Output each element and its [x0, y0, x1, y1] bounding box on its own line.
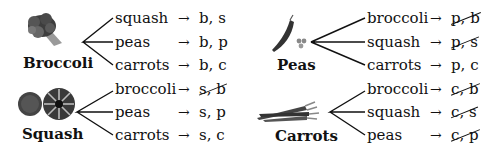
arrow-icon: → [430, 57, 442, 73]
arrow-icon: → [178, 81, 190, 97]
pair-result-crossed: s, b [199, 81, 226, 97]
branch-label: squash [367, 34, 420, 50]
broccoli-icon [24, 12, 68, 50]
group-label: Broccoli [23, 55, 93, 71]
branch-label: carrots [367, 57, 421, 73]
squash-icon [17, 87, 77, 121]
peapod-icon [268, 14, 308, 54]
branch-label: broccoli [367, 10, 428, 26]
arrow-icon: → [430, 127, 442, 143]
branch-label: carrots [115, 127, 169, 143]
pair-result: b, p [199, 34, 228, 50]
pair-result-crossed: c, p [451, 127, 479, 143]
arrow-icon: → [430, 81, 442, 97]
arrow-icon: → [430, 34, 442, 50]
group-label: Carrots [275, 128, 338, 144]
pair-result: s, c [199, 127, 225, 143]
pair-result: b, c [199, 57, 227, 73]
branch-label: broccoli [115, 81, 176, 97]
pair-result: b, s [199, 10, 226, 26]
arrow-icon: → [430, 10, 442, 26]
branch-label: carrots [115, 57, 169, 73]
branch-label: peas [367, 127, 402, 143]
arrow-icon: → [430, 104, 442, 120]
pair-result-crossed: p, s [451, 34, 478, 50]
arrow-icon: → [178, 104, 190, 120]
carrots-icon [255, 100, 321, 124]
branch-label: peas [115, 104, 150, 120]
pair-result-crossed: c, b [451, 81, 479, 97]
arrow-icon: → [178, 57, 190, 73]
arrow-icon: → [178, 10, 190, 26]
branch-label: broccoli [367, 81, 428, 97]
pair-result-crossed: p, b [451, 10, 480, 26]
pair-result: s, p [199, 104, 226, 120]
vegetable-pair-tree-diagram: Broccoli squash → b, s peas → b, p carro… [0, 0, 492, 151]
branch-label: peas [115, 34, 150, 50]
pair-result: p, c [451, 57, 479, 73]
group-label: Squash [22, 126, 83, 142]
arrow-icon: → [178, 127, 190, 143]
arrow-icon: → [178, 34, 190, 50]
branch-label: squash [115, 10, 168, 26]
group-label: Peas [277, 57, 316, 73]
pair-result-crossed: c, s [451, 104, 477, 120]
branch-label: squash [367, 104, 420, 120]
